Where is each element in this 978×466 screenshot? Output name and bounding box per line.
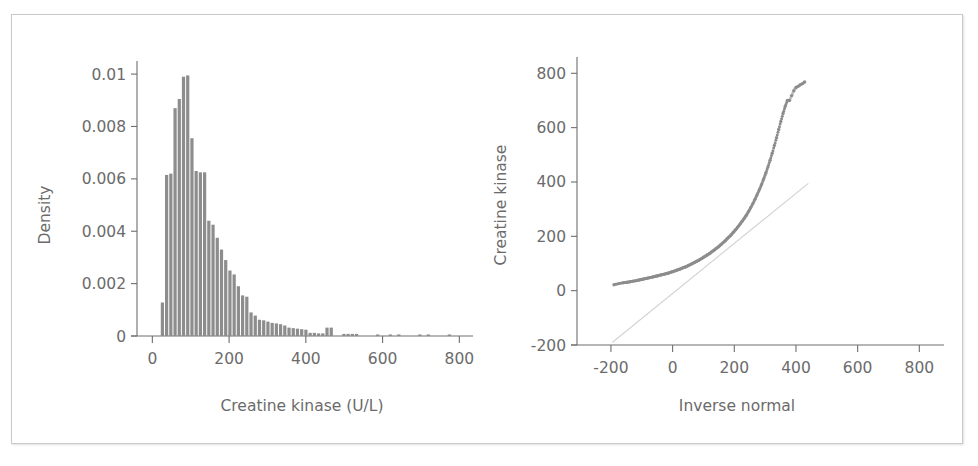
histogram-bar — [418, 334, 421, 336]
histogram-bar — [351, 334, 354, 336]
histogram-x-tick-label: 400 — [291, 350, 321, 368]
histogram-bar — [317, 333, 320, 336]
histogram-bar — [228, 271, 231, 336]
histogram-bar — [376, 334, 379, 336]
histogram-bar — [178, 99, 181, 336]
qq-plot-point — [771, 149, 774, 152]
qq-plot-x-tick-label: 800 — [905, 359, 935, 377]
histogram-x-tick-label: 800 — [445, 350, 475, 368]
figure-panel: 00.0020.0040.0060.0080.010200400600800 C… — [0, 0, 978, 466]
histogram-bar — [304, 330, 307, 336]
qq-plot-tick-labels: -2000200400600800-2000200400600800 — [531, 65, 934, 377]
qq-plot-point — [803, 80, 806, 83]
histogram-bar — [448, 334, 451, 336]
histogram-y-tick-label: 0.006 — [82, 170, 126, 188]
histogram-bar — [325, 328, 328, 336]
qq-plot-points — [612, 80, 806, 286]
histogram-bar — [195, 171, 198, 336]
histogram-bar — [161, 302, 164, 336]
histogram-bar — [389, 334, 392, 336]
histogram-bar — [292, 328, 295, 336]
histogram-bar — [258, 320, 261, 336]
histogram-y-tick-label: 0 — [116, 328, 126, 346]
histogram-bar — [190, 138, 193, 336]
histogram-bar — [342, 334, 345, 336]
qq-plot-axes — [571, 57, 944, 352]
qq-plot-y-tick-label: 800 — [536, 65, 566, 83]
qq-plot-point — [776, 133, 779, 136]
histogram-bar — [224, 260, 227, 336]
qq-plot-x-tick-label: 200 — [719, 359, 749, 377]
histogram-y-tick-label: 0.01 — [91, 66, 126, 84]
histogram-bar — [241, 295, 244, 336]
histogram-bar — [182, 77, 185, 336]
histogram-bar — [279, 324, 282, 336]
histogram-bars — [161, 75, 451, 336]
qq-plot-chart: -2000200400600800-2000200400600800 Inver… — [482, 15, 964, 443]
figure-frame: 00.0020.0040.0060.0080.010200400600800 C… — [11, 14, 963, 444]
qq-plot-x-tick-label: 0 — [668, 359, 678, 377]
histogram-bar — [211, 225, 214, 336]
histogram-bar — [330, 328, 333, 336]
histogram-bar — [186, 75, 189, 336]
qq-reference-line — [612, 183, 808, 342]
qq-plot-y-tick-label: 400 — [536, 173, 566, 191]
histogram-bar — [321, 333, 324, 336]
histogram-bar — [266, 322, 269, 336]
histogram-bar — [220, 250, 223, 336]
histogram-bar — [233, 274, 236, 336]
qq-plot-y-tick-label: -200 — [531, 337, 566, 355]
histogram-y-tick-label: 0.002 — [82, 275, 126, 293]
qq-plot-x-axis-title: Inverse normal — [679, 397, 795, 415]
histogram-y-axis-title: Density — [36, 186, 54, 245]
qq-plot-y-tick-label: 600 — [536, 119, 566, 137]
histogram-bar — [207, 221, 210, 336]
qq-plot-point — [774, 141, 777, 144]
histogram-y-tick-label: 0.008 — [82, 118, 126, 136]
histogram-bar — [169, 174, 172, 336]
histogram-bar — [165, 175, 168, 336]
histogram-bar — [283, 326, 286, 336]
qq-plot-y-axis-title: Creatine kinase — [492, 145, 510, 266]
histogram-bar — [347, 334, 350, 336]
histogram-bar — [245, 297, 248, 336]
qq-plot-x-tick-label: -200 — [593, 359, 628, 377]
qq-plot-point — [777, 128, 780, 131]
histogram-x-tick-label: 200 — [214, 350, 244, 368]
qq-plot-point — [779, 120, 782, 123]
histogram-bar — [216, 238, 219, 336]
histogram-bar — [397, 334, 400, 336]
qq-plot-point — [773, 144, 776, 147]
qq-plot-y-tick-label: 0 — [556, 282, 566, 300]
histogram-bar — [313, 333, 316, 336]
histogram-bar — [275, 323, 278, 336]
qq-plot-x-tick-label: 400 — [781, 359, 811, 377]
histogram-bar — [254, 316, 257, 336]
histogram-bar — [271, 323, 274, 336]
histogram-tick-labels: 00.0020.0040.0060.0080.010200400600800 — [82, 66, 474, 368]
histogram-bar — [262, 320, 265, 336]
qq-plot-y-tick-label: 200 — [536, 228, 566, 246]
histogram-bar — [237, 286, 240, 336]
histogram-bar — [300, 329, 303, 336]
histogram-chart: 00.0020.0040.0060.0080.010200400600800 C… — [12, 15, 482, 443]
qq-plot-x-tick-label: 600 — [843, 359, 873, 377]
qq-plot-point — [780, 117, 783, 120]
histogram-bar — [296, 329, 299, 336]
qq-plot-point — [775, 136, 778, 139]
histogram-x-axis-title: Creatine kinase (U/L) — [221, 397, 384, 415]
histogram-y-tick-label: 0.004 — [82, 223, 126, 241]
histogram-bar — [355, 334, 358, 336]
histogram-bar — [249, 312, 252, 336]
histogram-x-tick-label: 0 — [147, 350, 157, 368]
histogram-bar — [203, 172, 206, 336]
histogram-bar — [427, 334, 430, 336]
histogram-bar — [309, 333, 312, 336]
histogram-bar — [287, 328, 290, 336]
histogram-bar — [199, 172, 202, 336]
histogram-x-tick-label: 600 — [368, 350, 398, 368]
qq-plot-point — [778, 125, 781, 128]
histogram-bar — [173, 108, 176, 336]
